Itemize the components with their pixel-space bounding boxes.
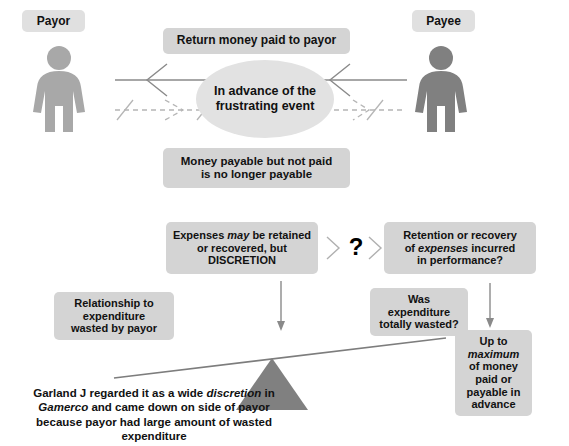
discretion-line-1-pre: Expenses xyxy=(173,229,227,241)
money-payable-text: Money payable but not paid is no longer … xyxy=(181,155,332,181)
discretion-line-3: DISCRETION xyxy=(208,254,276,266)
caption-line-1-em: discretion xyxy=(206,387,261,399)
wasted-line-1: Was xyxy=(408,293,430,305)
retention-box: Retention or recovery of expenses incurr… xyxy=(384,222,536,274)
return-money-text: Return money paid to payor xyxy=(177,34,336,48)
maximum-box: Up to maximum of money paid or payable i… xyxy=(455,330,532,416)
caption-line-3: because payor had large amount of wasted xyxy=(36,416,272,428)
ellipse-line-1: In advance of the xyxy=(214,84,316,98)
discretion-box: Expenses may be retained or recovered, b… xyxy=(166,222,318,274)
retention-line-3: in performance? xyxy=(417,254,503,266)
return-money-box: Return money paid to payor xyxy=(163,28,350,54)
maximum-text: Up to maximum of money paid or payable i… xyxy=(467,335,521,411)
caption-text: Garland J regarded it as a wide discreti… xyxy=(8,386,300,444)
discretion-line-1-post: be retained xyxy=(249,229,311,241)
wasted-line-2: expenditure xyxy=(388,306,450,318)
caption-line-2-post: and came down on side of payor xyxy=(88,401,269,413)
payor-label-tag: Payor xyxy=(22,10,85,32)
maximum-line-1: Up to xyxy=(479,335,507,347)
retention-line-1: Retention or recovery xyxy=(403,229,517,241)
maximum-line-6: advance xyxy=(471,398,515,410)
diagram-canvas: Payor Payee xyxy=(0,0,569,446)
caption-line-1-post: in xyxy=(261,387,274,399)
discretion-line-1-em: may xyxy=(227,229,249,241)
discretion-line-2: or recovered, but xyxy=(197,242,287,254)
maximum-line-5: payable in xyxy=(467,386,521,398)
wasted-box: Was expenditure totally wasted? xyxy=(370,288,468,336)
payee-label-text: Payee xyxy=(426,14,461,28)
ellipse-line-2: frustrating event xyxy=(216,99,315,113)
relationship-line-1: Relationship to xyxy=(74,297,153,309)
maximum-line-2: maximum xyxy=(468,348,519,360)
relationship-line-2: expenditure xyxy=(83,310,145,322)
maximum-line-4: paid or xyxy=(475,373,512,385)
discretion-text: Expenses may be retained or recovered, b… xyxy=(173,229,311,267)
retention-line-2-pre: of xyxy=(405,242,418,254)
payor-label-text: Payor xyxy=(37,14,70,28)
payee-label-tag: Payee xyxy=(412,10,475,32)
retention-line-2-post: incurred xyxy=(468,242,515,254)
retention-line-2-em: expenses xyxy=(418,242,468,254)
payor-figure-icon xyxy=(28,46,90,132)
frustrating-event-ellipse: In advance of the frustrating event xyxy=(196,60,334,138)
question-mark: ? xyxy=(342,233,370,261)
maximum-line-3: of money xyxy=(469,360,518,372)
caption-line-4: expenditure xyxy=(121,430,186,442)
retention-text: Retention or recovery of expenses incurr… xyxy=(403,229,517,267)
wasted-text: Was expenditure totally wasted? xyxy=(379,293,458,331)
caption-line-2-em: Gamerco xyxy=(38,401,88,413)
frustrating-event-text: In advance of the frustrating event xyxy=(214,84,316,114)
caption-line-1-pre: Garland J regarded it as a wide xyxy=(33,387,206,399)
wasted-line-3: totally wasted? xyxy=(379,318,458,330)
money-payable-line-1: Money payable but not paid xyxy=(181,155,332,167)
money-payable-line-2: is no longer payable xyxy=(201,168,312,180)
money-payable-box: Money payable but not paid is no longer … xyxy=(163,148,350,188)
